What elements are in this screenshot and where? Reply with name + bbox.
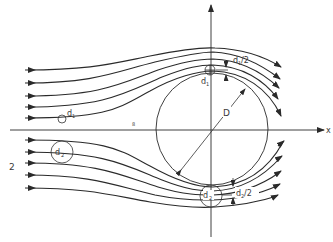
- svg-text:/2: /2: [241, 56, 249, 65]
- small-mark: 8: [132, 121, 135, 127]
- diameter-label: D: [223, 108, 230, 118]
- svg-text:1: 1: [72, 113, 75, 119]
- cylinder: [156, 73, 268, 185]
- x-axis-label: x: [326, 126, 331, 135]
- inflow-arrows: [28, 67, 36, 191]
- diameter-line: [181, 89, 245, 170]
- particle-d2-upstream: d 2: [51, 141, 73, 163]
- svg-text:1: 1: [206, 81, 209, 87]
- svg-text:d: d: [203, 191, 208, 200]
- svg-text:2: 2: [61, 152, 64, 158]
- side-number-label: 2: [9, 162, 15, 172]
- flow-diagram: x D: [0, 0, 333, 242]
- svg-text:/2: /2: [244, 189, 252, 198]
- particle-d1-upstream: d 1: [58, 109, 75, 123]
- svg-text:2: 2: [209, 195, 212, 201]
- svg-text:d: d: [55, 148, 60, 157]
